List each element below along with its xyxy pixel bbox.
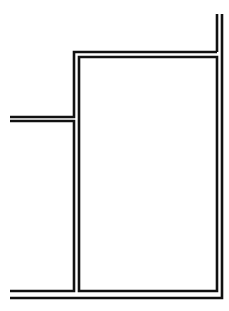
room-inner-outline	[79, 57, 217, 291]
floor-plan-diagram	[0, 0, 229, 311]
corridor-left-lower-wall	[10, 121, 74, 291]
room-top-outer-wall	[10, 52, 217, 117]
